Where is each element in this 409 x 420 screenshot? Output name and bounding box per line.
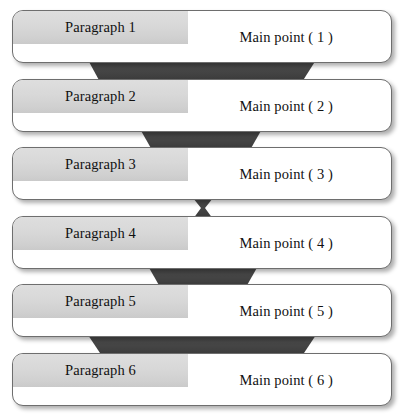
flow-row[interactable]: Paragraph 3 Main point ( 3 ) — [12, 147, 392, 200]
flow-row[interactable]: Paragraph 5 Main point ( 5 ) — [12, 284, 392, 337]
flow-row[interactable]: Paragraph 1 Main point ( 1 ) — [12, 10, 392, 63]
flow-diagram: Paragraph 1 Main point ( 1 ) Paragraph 2… — [0, 0, 409, 420]
paragraph-label: Paragraph 4 — [13, 217, 188, 250]
main-point-label: Main point ( 4 ) — [240, 217, 377, 269]
main-point-label: Main point ( 6 ) — [240, 354, 377, 406]
paragraph-box[interactable]: Paragraph 6 Main point ( 6 ) — [12, 353, 392, 406]
paragraph-box[interactable]: Paragraph 3 Main point ( 3 ) — [12, 147, 392, 200]
main-point-label: Main point ( 2 ) — [240, 80, 377, 132]
flow-row[interactable]: Paragraph 6 Main point ( 6 ) — [12, 353, 392, 406]
paragraph-box[interactable]: Paragraph 4 Main point ( 4 ) — [12, 216, 392, 269]
main-point-label: Main point ( 3 ) — [240, 148, 377, 200]
paragraph-box[interactable]: Paragraph 1 Main point ( 1 ) — [12, 10, 392, 63]
main-point-label: Main point ( 5 ) — [240, 285, 377, 337]
flow-row[interactable]: Paragraph 4 Main point ( 4 ) — [12, 216, 392, 269]
paragraph-box[interactable]: Paragraph 5 Main point ( 5 ) — [12, 284, 392, 337]
flow-row[interactable]: Paragraph 2 Main point ( 2 ) — [12, 79, 392, 132]
main-point-label: Main point ( 1 ) — [240, 11, 377, 63]
paragraph-label: Paragraph 2 — [13, 80, 188, 113]
paragraph-label: Paragraph 1 — [13, 11, 188, 44]
paragraph-label: Paragraph 5 — [13, 285, 188, 318]
paragraph-box[interactable]: Paragraph 2 Main point ( 2 ) — [12, 79, 392, 132]
paragraph-label: Paragraph 6 — [13, 354, 188, 387]
paragraph-label: Paragraph 3 — [13, 148, 188, 181]
